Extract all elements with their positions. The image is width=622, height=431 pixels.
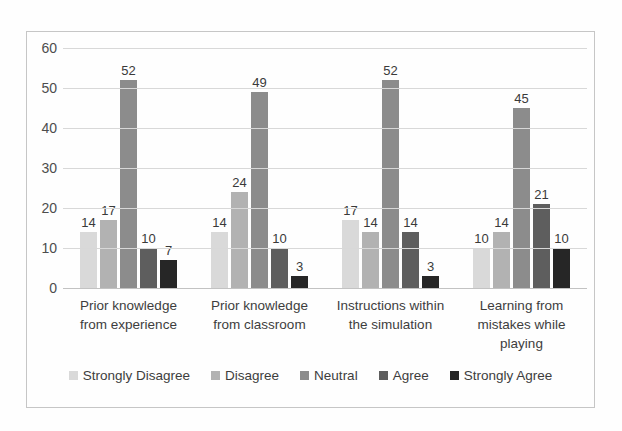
bar: 14 [211,232,228,288]
legend-label: Strongly Agree [464,368,553,383]
legend: Strongly DisagreeDisagreeNeutralAgreeStr… [27,368,594,383]
bar-value-label: 17 [343,203,357,218]
legend-swatch-icon [300,371,309,380]
legend-label: Neutral [314,368,358,383]
bar: 45 [513,108,530,288]
bar: 10 [271,248,288,288]
category-label-4: Learning from mistakes while playing [456,296,587,353]
bar-value-label: 52 [121,63,135,78]
gridline-y-60 [63,48,587,49]
category-label-2: Prior knowledge from classroom [194,296,325,353]
gridline-y-10 [63,248,587,249]
bar: 21 [533,204,550,288]
bar-value-label: 10 [554,231,568,246]
bar: 10 [473,248,490,288]
legend-item: Disagree [211,368,279,383]
bar: 10 [140,248,157,288]
legend-swatch-icon [450,371,459,380]
bar-value-label: 52 [383,63,397,78]
bar-value-label: 3 [296,259,303,274]
bar-value-label: 14 [403,215,417,230]
bar-value-label: 14 [81,215,95,230]
legend-label: Strongly Disagree [83,368,190,383]
bar: 52 [382,80,399,288]
y-tick-label-50: 50 [29,80,57,96]
gridline-y-30 [63,168,587,169]
bar-value-label: 45 [514,91,528,106]
bar: 49 [251,92,268,288]
bar-value-label: 7 [165,243,172,258]
legend-swatch-icon [211,371,220,380]
bar: 17 [342,220,359,288]
legend-swatch-icon [69,371,78,380]
gridline-y-0 [63,288,587,289]
y-tick-label-20: 20 [29,200,57,216]
bar-value-label: 21 [534,187,548,202]
bar: 14 [80,232,97,288]
bar-value-label: 10 [141,231,155,246]
bar: 52 [120,80,137,288]
scanned-chart-figure: 0102030405060 14175210714244910317145214… [0,0,622,431]
plot-area: 1417521071424491031714521431014452110 [63,48,587,288]
y-tick-label-0: 0 [29,280,57,296]
legend-item: Strongly Disagree [69,368,190,383]
bar-value-label: 17 [101,203,115,218]
chart-area: 0102030405060 14175210714244910317145214… [26,31,595,408]
legend-item: Neutral [300,368,358,383]
gridline-y-50 [63,88,587,89]
bar: 7 [160,260,177,288]
bar-value-label: 10 [474,231,488,246]
bar: 10 [553,248,570,288]
bar-value-label: 14 [494,215,508,230]
category-label-1: Prior knowledge from experience [63,296,194,353]
bar: 17 [100,220,117,288]
bar: 24 [231,192,248,288]
y-tick-label-30: 30 [29,160,57,176]
category-label-3: Instructions within the simulation [325,296,456,353]
y-tick-label-10: 10 [29,240,57,256]
y-tick-label-60: 60 [29,40,57,56]
bar: 14 [493,232,510,288]
bar: 14 [402,232,419,288]
legend-swatch-icon [379,371,388,380]
legend-item: Agree [379,368,429,383]
legend-item: Strongly Agree [450,368,553,383]
y-tick-label-40: 40 [29,120,57,136]
bar: 3 [422,276,439,288]
gridline-y-40 [63,128,587,129]
legend-label: Disagree [225,368,279,383]
bar: 14 [362,232,379,288]
x-axis-category-labels: Prior knowledge from experiencePrior kno… [63,296,587,353]
legend-label: Agree [393,368,429,383]
bar-value-label: 14 [212,215,226,230]
bar-value-label: 3 [427,259,434,274]
gridline-y-20 [63,208,587,209]
bar-value-label: 24 [232,175,246,190]
bar-value-label: 10 [272,231,286,246]
bar-value-label: 14 [363,215,377,230]
bar: 3 [291,276,308,288]
